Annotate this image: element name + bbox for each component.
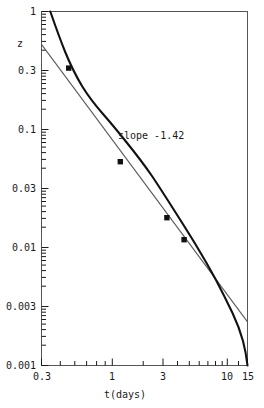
y-ticklabel-1: 1 xyxy=(0,7,36,17)
y-axis-minor-ticks xyxy=(42,14,47,345)
data-marker xyxy=(118,159,123,164)
x-ticklabel-15: 15 xyxy=(236,372,260,382)
data-marker xyxy=(164,215,169,220)
x-axis-major-ticks xyxy=(42,359,248,366)
data-marker xyxy=(66,65,71,70)
y-ticklabel-0-01: 0.01 xyxy=(0,243,36,253)
y-ticklabel-0-3: 0.3 xyxy=(0,66,36,76)
y-ticklabel-0-03: 0.03 xyxy=(0,184,36,194)
y-ticklabel-0-1: 0.1 xyxy=(0,125,36,135)
slope-annotation: slope -1.42 xyxy=(118,131,184,141)
data-markers xyxy=(66,65,187,242)
figure-panel: 1 0.3 0.1 0.03 0.01 0.003 0.001 0.3 1 3 … xyxy=(0,0,264,408)
data-marker xyxy=(181,237,186,242)
x-axis-title: t(days) xyxy=(104,390,146,400)
y-ticklabel-0-001: 0.001 xyxy=(0,361,36,371)
frame-rect xyxy=(42,12,248,366)
log-log-plot xyxy=(0,0,264,408)
y-axis-title: z xyxy=(17,39,23,49)
y-ticklabel-0-003: 0.003 xyxy=(0,302,36,312)
x-ticklabel-0-3: 0.3 xyxy=(28,372,56,382)
plot-frame xyxy=(42,12,248,366)
x-ticklabel-3: 3 xyxy=(151,372,175,382)
x-ticklabel-1: 1 xyxy=(100,372,124,382)
x-axis-minor-ticks xyxy=(60,361,238,366)
